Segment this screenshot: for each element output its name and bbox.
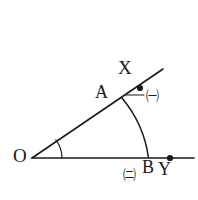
construction-arc (122, 98, 149, 159)
label-point-b: B (142, 158, 154, 176)
dot-on-ray-ox (137, 85, 143, 91)
label-ray-end-y: Y (158, 160, 171, 178)
label-ray-end-x: X (118, 58, 132, 77)
annotation-mark-lower: ㈡ (123, 168, 136, 181)
label-point-a: A (95, 83, 108, 101)
label-point-o: O (13, 146, 27, 165)
annotation-mark-upper: ㈠ (146, 89, 159, 102)
diagram-canvas: O A X B Y ㈠ ㈡ (0, 0, 198, 200)
